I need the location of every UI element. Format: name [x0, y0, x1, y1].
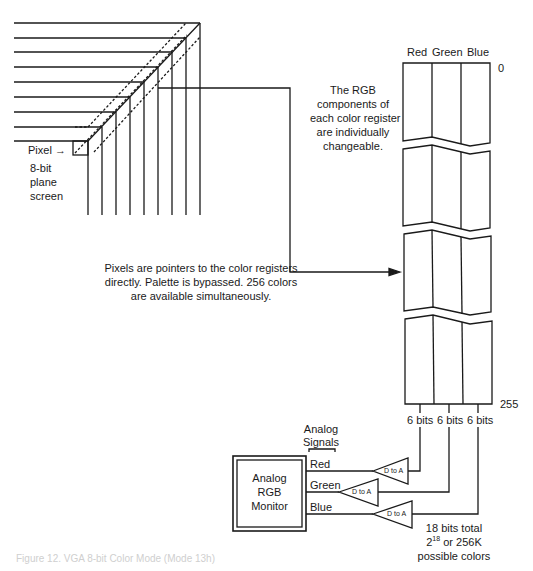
total-note-line2: 218 or 256K: [412, 536, 496, 549]
dac-blue-label: D to A: [387, 509, 406, 518]
blue-bit-line-lower: [412, 427, 478, 514]
monitor-label-line3: Monitor: [237, 500, 302, 513]
figure-caption: Figure 12. VGA 8-bit Color Mode (Mode 13…: [16, 553, 215, 564]
bit-label-green: 6 bits: [437, 414, 463, 427]
pointer-note-line1: Pixels are pointers to the color registe…: [86, 262, 316, 275]
total-note-line1: 18 bits total: [412, 522, 496, 535]
monitor-label-line2: RGB: [237, 486, 302, 499]
total-note-exponent: 18: [432, 535, 440, 542]
analog-signals-line2: Signals: [296, 436, 346, 449]
register-index-top: 0: [498, 62, 504, 75]
color-register-stack: [403, 63, 492, 404]
red-bit-line-lower: [408, 427, 420, 471]
arrow-head: [389, 269, 400, 276]
screen-label-line3: screen: [30, 190, 63, 203]
bit-label-blue: 6 bits: [467, 414, 493, 427]
rgb-note-line1: The RGB: [310, 84, 396, 97]
analog-signals-line1: Analog: [296, 423, 346, 436]
pointer-note-line2: directly. Palette is bypassed. 256 color…: [86, 276, 316, 289]
pointer-note-line3: are available simultaneously.: [86, 290, 316, 303]
register-header-green: Green: [432, 46, 463, 59]
register-header-blue: Blue: [467, 46, 489, 59]
bit-label-red: 6 bits: [407, 414, 433, 427]
register-header-red: Red: [407, 46, 427, 59]
analog-signals-bracket: [309, 449, 335, 452]
rgb-note-line5: changeable.: [310, 140, 396, 153]
screen-label-line2: plane: [30, 176, 57, 189]
signal-label-red: Red: [310, 458, 330, 471]
screen-label-line1: 8-bit: [30, 162, 51, 175]
rgb-note-line4: are individually: [310, 126, 396, 139]
dac-red-label: D to A: [384, 466, 403, 475]
total-note-rest: or 256K: [440, 536, 482, 548]
green-bit-line-lower: [378, 427, 449, 492]
total-note-line3: possible colors: [412, 550, 496, 563]
register-index-bottom: 255: [500, 398, 518, 411]
signal-label-blue: Blue: [310, 501, 332, 514]
pixel-label: Pixel →: [28, 144, 66, 157]
signal-label-green: Green: [310, 479, 341, 492]
rgb-note-line2: components of: [310, 98, 396, 111]
rgb-note-line3: each color register: [310, 112, 396, 125]
dac-green-label: D to A: [352, 487, 371, 496]
monitor-label-line1: Analog: [237, 472, 302, 485]
